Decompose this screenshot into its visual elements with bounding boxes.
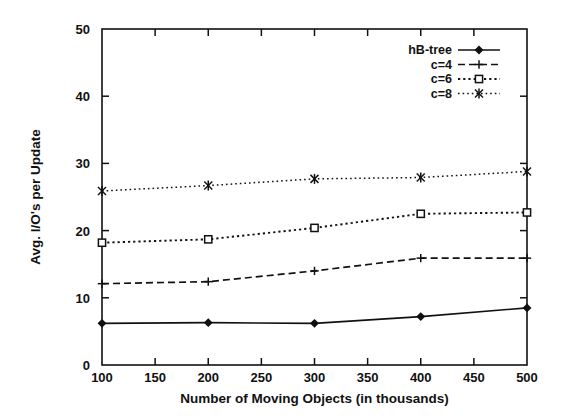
legend-label-c=4: c=4: [431, 58, 452, 72]
data-point-open-square: [475, 75, 482, 82]
x-tick-label: 450: [463, 370, 485, 385]
legend-label-c=8: c=8: [431, 87, 452, 101]
y-tick-label: 10: [76, 291, 90, 306]
y-tick-label: 40: [76, 89, 90, 104]
x-tick-label: 350: [357, 370, 379, 385]
legend-label-hB-tree: hB-tree: [408, 43, 452, 57]
x-axis-title: Number of Moving Objects (in thousands): [180, 391, 449, 406]
data-point-open-square: [523, 209, 530, 216]
y-tick-label: 20: [76, 224, 90, 239]
y-tick-label: 0: [83, 358, 90, 373]
x-tick-label: 400: [410, 370, 432, 385]
line-chart-canvas: 100150200250300350400450500 01020304050 …: [0, 0, 569, 418]
x-axis-tick-labels: 100150200250300350400450500: [91, 370, 538, 385]
chart-figure: 100150200250300350400450500 01020304050 …: [0, 0, 569, 418]
x-tick-label: 150: [144, 370, 166, 385]
data-point-open-square: [417, 210, 424, 217]
x-tick-label: 250: [251, 370, 273, 385]
y-tick-label: 50: [76, 22, 90, 37]
x-tick-label: 200: [197, 370, 219, 385]
y-tick-label: 30: [76, 156, 90, 171]
data-point-open-square: [205, 236, 212, 243]
data-point-open-square: [311, 224, 318, 231]
y-axis-title: Avg. I/O's per Update: [28, 129, 43, 265]
data-point-open-square: [98, 239, 105, 246]
x-tick-label: 100: [91, 370, 113, 385]
chart-background: [0, 0, 569, 418]
x-tick-label: 500: [516, 370, 538, 385]
x-tick-label: 300: [304, 370, 326, 385]
legend-label-c=6: c=6: [431, 72, 452, 86]
